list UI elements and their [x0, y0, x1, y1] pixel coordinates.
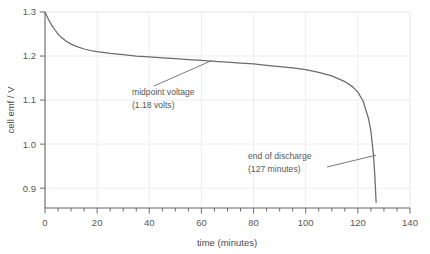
- y-tick-label: 1.1: [23, 94, 36, 105]
- end-of-discharge-label-line2: (127 minutes): [248, 164, 301, 174]
- x-tick-label: 120: [350, 217, 366, 228]
- y-tick-label: 0.9: [23, 183, 36, 194]
- x-axis-title: time (minutes): [197, 237, 257, 248]
- x-tick-label: 80: [248, 217, 259, 228]
- midpoint-voltage-label-line1: midpoint voltage: [132, 87, 195, 97]
- y-tick-label: 1.3: [23, 6, 36, 17]
- end-of-discharge-label-line1: end of discharge: [248, 151, 312, 161]
- x-tick-label: 20: [92, 217, 103, 228]
- x-minor-ticks: [45, 208, 410, 214]
- y-tick-label: 1.2: [23, 50, 36, 61]
- x-tick-label: 140: [402, 217, 418, 228]
- x-tick-label: 40: [144, 217, 155, 228]
- x-tick-label: 100: [298, 217, 314, 228]
- chart-container: 0204060801001201400.91.01.11.21.3 midpoi…: [0, 0, 430, 254]
- midpoint-voltage-label-line2: (1.18 volts): [132, 100, 175, 110]
- y-axis-title: cell emf / V: [5, 86, 16, 134]
- plot-area-frame: [45, 12, 410, 208]
- x-tick-label: 0: [42, 217, 47, 228]
- axis-ticks: [40, 12, 45, 188]
- discharge-curve-chart: 0204060801001201400.91.01.11.21.3 midpoi…: [0, 0, 430, 254]
- y-tick-label: 1.0: [23, 139, 36, 150]
- x-tick-label: 60: [196, 217, 207, 228]
